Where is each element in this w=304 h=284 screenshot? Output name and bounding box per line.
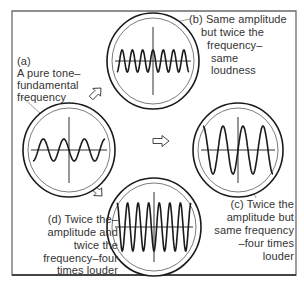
label-b-line4: same: [211, 52, 238, 65]
arrow-a-to-b-icon: [87, 84, 105, 102]
label-a-line2: fundamental: [17, 79, 79, 92]
label-c-line3: same frequency: [214, 224, 294, 237]
label-b-line5: loudness: [211, 64, 256, 77]
label-d-line2: amplitude and: [48, 226, 118, 239]
label-d-line4: frequency–four: [43, 252, 118, 265]
label-a-tag: (a): [17, 55, 31, 68]
label-b-line2: but twice the: [201, 26, 264, 39]
label-c-line4: –four times: [238, 237, 294, 250]
scope-d: [107, 178, 201, 276]
label-d-line3: twice the: [74, 239, 118, 252]
scope-a: [23, 103, 115, 197]
label-b-line1: (b) Same amplitude: [189, 13, 287, 26]
label-c-line1: (c) Twice the: [231, 198, 294, 211]
label-d-line1: (d) Twice the–: [48, 213, 118, 226]
scope-c: [193, 103, 283, 197]
arrow-a-to-c-icon: [153, 136, 169, 147]
label-a-line3: frequency: [17, 91, 66, 104]
label-b-line3: frequency–: [207, 39, 262, 52]
label-a-line1: A pure tone–: [17, 67, 81, 80]
scope-b: [107, 13, 199, 109]
label-c-line5: louder: [263, 250, 294, 263]
label-d-line5: times louder: [57, 264, 118, 277]
label-c-line2: amplitude but: [227, 211, 294, 224]
